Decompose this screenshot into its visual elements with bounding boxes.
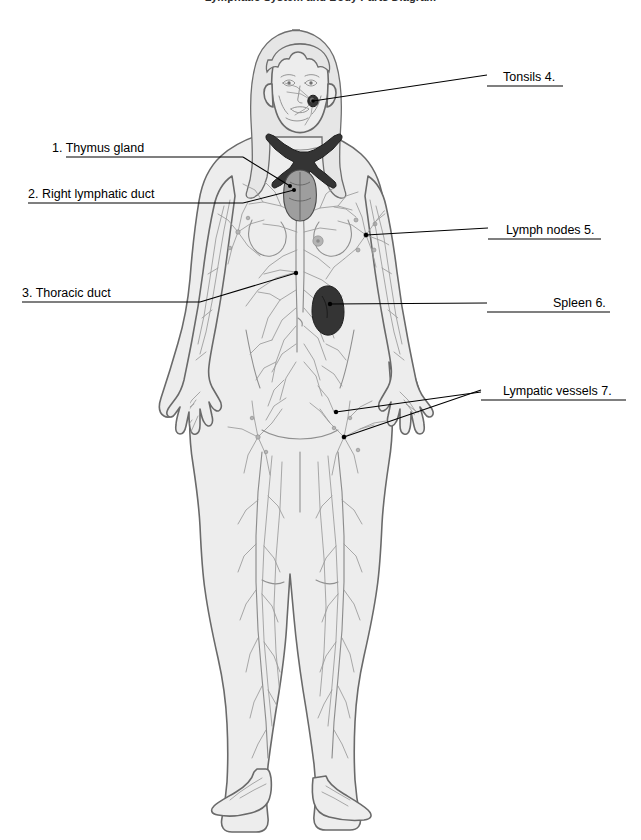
label-spleen[interactable]: Spleen 6. — [553, 296, 606, 311]
spleen-organ — [312, 286, 344, 335]
thymus-gland-organ — [284, 170, 317, 221]
label-tonsils[interactable]: Tonsils 4. — [503, 70, 555, 85]
label-lympatic-vessels[interactable]: Lympatic vessels 7. — [503, 384, 612, 399]
label-right-lymphatic-duct[interactable]: 2. Right lymphatic duct — [28, 187, 154, 202]
label-lymph-nodes[interactable]: Lymph nodes 5. — [506, 223, 594, 238]
label-thymus-gland[interactable]: 1. Thymus gland — [52, 141, 144, 156]
diagram-canvas: Lymphatic System and Body Parts Diagram … — [0, 0, 641, 840]
label-thoracic-duct[interactable]: 3. Thoracic duct — [22, 286, 111, 301]
lymphatic-system-figure: .sk{fill:#ededed;stroke:#6a6a6a;stroke-w… — [0, 0, 641, 840]
